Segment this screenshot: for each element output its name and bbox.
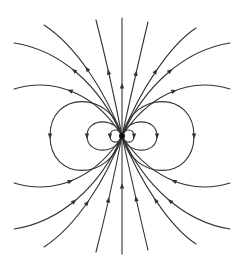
field-arrow-icon	[108, 133, 113, 139]
field-line-bottom	[122, 136, 196, 244]
dipole-field-diagram	[0, 0, 245, 272]
dipole-core	[119, 133, 125, 139]
field-arrow-icon	[120, 83, 124, 89]
field-arrow-icon	[67, 88, 74, 94]
field-arrow-icon	[153, 68, 160, 75]
field-loop-left	[87, 122, 122, 150]
field-line-top	[122, 28, 196, 136]
field-arrow-icon	[155, 133, 160, 139]
field-arrow-icon	[170, 178, 177, 184]
field-arrow-icon	[67, 178, 74, 184]
field-arrow-icon	[152, 197, 159, 204]
field-arrow-icon	[85, 133, 90, 139]
field-arrow-icon	[48, 133, 52, 139]
field-arrow-icon	[132, 133, 137, 139]
field-arrow-icon	[120, 183, 124, 189]
field-arrow-icon	[192, 133, 196, 139]
field-arrow-icon	[106, 197, 112, 203]
field-arrow-icon	[171, 88, 178, 94]
